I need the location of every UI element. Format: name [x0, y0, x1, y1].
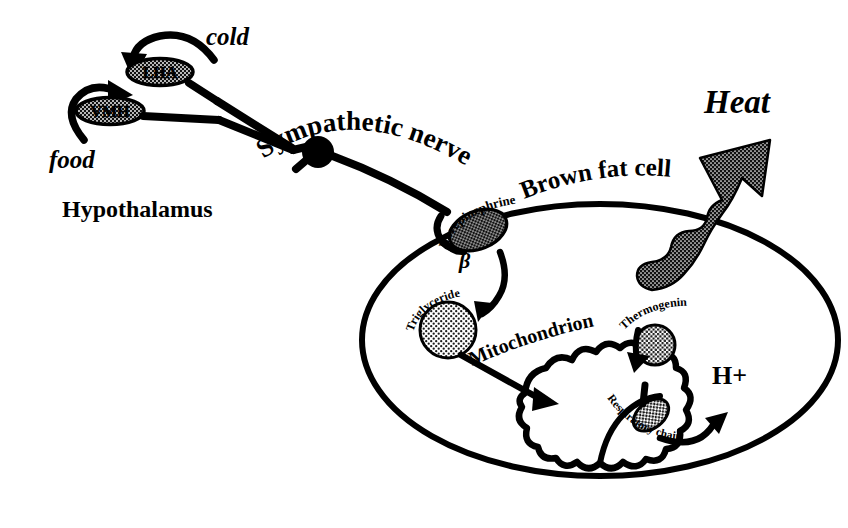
proton-arrow — [660, 412, 728, 442]
sympathetic-nerve-label: Sympathetic nerve — [251, 106, 478, 171]
cold-label: cold — [206, 23, 250, 50]
signal-arrow — [474, 252, 505, 322]
vmh-nucleus: VMH — [76, 98, 144, 125]
lha-nucleus: LHA — [127, 59, 193, 86]
food-label: food — [49, 146, 95, 173]
hypothalamus-label: Hypothalamus — [62, 196, 213, 222]
inhibition-bar — [643, 385, 645, 404]
heat-label: Heat — [703, 84, 771, 120]
proton-label: H+ — [712, 361, 747, 390]
lha-label: LHA — [143, 64, 178, 81]
brown-fat-cell-label: Brown fat cell — [516, 153, 672, 203]
beta-receptor-label: β — [458, 248, 471, 273]
thermogenesis-diagram-svg: LHA VMH cold food Hypothalamus — [0, 0, 848, 528]
vmh-label: VMH — [90, 103, 130, 120]
mitochondrion-label: Mitochondrion — [465, 309, 595, 370]
diagram-canvas: LHA VMH cold food Hypothalamus — [0, 0, 848, 528]
